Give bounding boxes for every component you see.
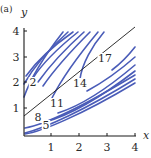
x-tick-label: 1 [48, 141, 55, 154]
y-tick-label: 3 [13, 51, 20, 64]
x-tick-label: 3 [104, 141, 111, 154]
y-axis-label: y [20, 6, 28, 19]
x-tick-label: 4 [132, 141, 139, 154]
contour-line-lower-0 [25, 83, 135, 134]
y-ticks: 1234 [13, 25, 28, 115]
contour-label-5: 5 [43, 119, 50, 132]
contour-line-upper-3 [33, 32, 78, 78]
contour-label-17: 17 [98, 52, 112, 65]
y-tick-label: 1 [13, 102, 20, 115]
x-tick-label: 2 [76, 141, 83, 154]
contour-label-2: 2 [30, 76, 37, 89]
x-axis-label: x [143, 129, 150, 142]
contour-label-8: 8 [35, 111, 42, 124]
panel-label: (a) [0, 4, 12, 14]
y-tick-label: 2 [13, 76, 20, 89]
contour-plot: (a) 1234 1234 x y 258111417 [0, 0, 151, 158]
contour-label-11: 11 [50, 97, 64, 110]
y-tick-label: 4 [13, 25, 20, 38]
contour-label-14: 14 [73, 77, 87, 90]
